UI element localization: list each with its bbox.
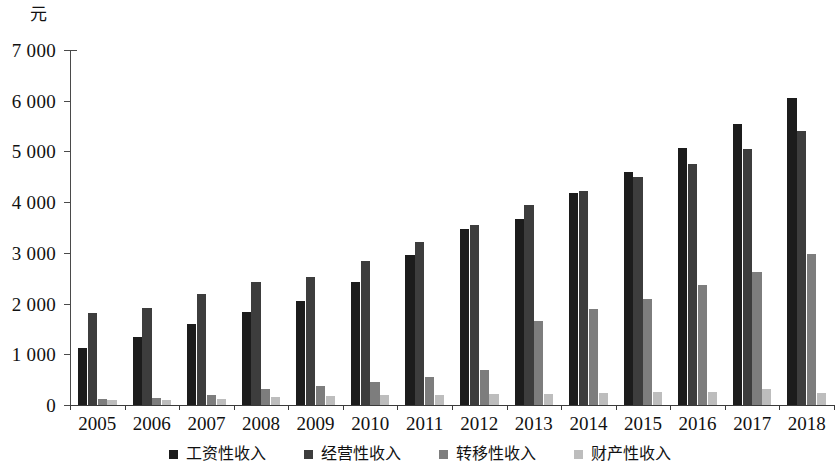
x-axis-tick xyxy=(561,405,562,410)
bar xyxy=(460,229,469,405)
y-axis-tick-label: 4 000 xyxy=(12,193,56,212)
x-axis-tick-label: 2008 xyxy=(234,413,289,435)
bar xyxy=(152,398,161,405)
bar-group xyxy=(179,50,234,405)
x-axis-tick xyxy=(70,405,71,410)
bar xyxy=(643,299,652,405)
x-axis-tick-label: 2017 xyxy=(725,413,780,435)
y-axis-tick-label: 5 000 xyxy=(12,142,56,161)
bar-chart: 元 01 0002 0003 0004 0005 0006 0007 00020… xyxy=(0,0,840,465)
y-axis-tick-label: 1 000 xyxy=(12,345,56,364)
x-axis-tick xyxy=(616,405,617,410)
bar xyxy=(197,294,206,405)
legend-item-label: 经营性收入 xyxy=(321,445,401,463)
legend-item[interactable]: 财产性收入 xyxy=(574,445,671,463)
bar xyxy=(787,98,796,405)
bar xyxy=(817,393,826,405)
bar xyxy=(743,149,752,405)
bar-group xyxy=(725,50,780,405)
bar xyxy=(435,395,444,405)
x-axis-tick xyxy=(179,405,180,410)
y-axis-tick-label: 2 000 xyxy=(12,295,56,314)
bar xyxy=(688,164,697,405)
x-axis-tick xyxy=(343,405,344,410)
bar-group xyxy=(70,50,125,405)
legend-item[interactable]: 转移性收入 xyxy=(439,445,536,463)
bar xyxy=(415,242,424,405)
legend-item[interactable]: 工资性收入 xyxy=(169,445,266,463)
bar xyxy=(361,261,370,405)
bar xyxy=(207,395,216,405)
legend-item-label: 工资性收入 xyxy=(186,445,266,463)
bar xyxy=(78,348,87,405)
x-axis-tick-label: 2009 xyxy=(288,413,343,435)
bar xyxy=(351,282,360,405)
bar xyxy=(142,308,151,405)
y-axis-tick-label: 0 xyxy=(46,396,56,415)
bar xyxy=(133,337,142,405)
legend-swatch-icon xyxy=(574,450,583,459)
bar xyxy=(370,382,379,405)
bar-group xyxy=(397,50,452,405)
x-axis-tick-label: 2011 xyxy=(397,413,452,435)
bar xyxy=(261,389,270,405)
bar xyxy=(569,193,578,405)
legend-item[interactable]: 经营性收入 xyxy=(304,445,401,463)
bar xyxy=(88,313,97,405)
x-axis-tick xyxy=(779,405,780,410)
bar xyxy=(797,131,806,405)
bar-group xyxy=(616,50,671,405)
bar-group xyxy=(561,50,616,405)
bar xyxy=(534,321,543,405)
x-axis-tick xyxy=(507,405,508,410)
bar xyxy=(807,254,816,405)
x-axis-tick-label: 2005 xyxy=(70,413,125,435)
bar xyxy=(762,389,771,405)
bar xyxy=(733,124,742,405)
bar xyxy=(678,148,687,405)
x-axis-tick-label: 2013 xyxy=(507,413,562,435)
bar xyxy=(480,370,489,406)
x-axis-tick xyxy=(125,405,126,410)
bar xyxy=(524,205,533,405)
bar-group xyxy=(234,50,289,405)
legend-item-label: 转移性收入 xyxy=(456,445,536,463)
x-axis-tick xyxy=(288,405,289,410)
bar xyxy=(515,219,524,405)
bar-group xyxy=(343,50,398,405)
chart-legend: 工资性收入经营性收入转移性收入财产性收入 xyxy=(0,445,840,463)
bar xyxy=(251,282,260,405)
x-axis-tick xyxy=(725,405,726,410)
bar-group xyxy=(125,50,180,405)
bar xyxy=(98,399,107,405)
x-axis-tick-label: 2007 xyxy=(179,413,234,435)
bar xyxy=(380,395,389,405)
y-axis-tick-label: 6 000 xyxy=(12,92,56,111)
bar xyxy=(470,225,479,405)
bar xyxy=(579,191,588,405)
bar xyxy=(316,386,325,405)
x-axis-tick xyxy=(452,405,453,410)
bar-group xyxy=(288,50,343,405)
bar xyxy=(752,272,761,405)
x-axis-tick-label: 2006 xyxy=(125,413,180,435)
bar xyxy=(271,397,280,405)
bar xyxy=(217,399,226,405)
x-axis-tick-label: 2018 xyxy=(779,413,834,435)
y-axis-unit-label: 元 xyxy=(30,4,47,24)
x-axis-tick-label: 2014 xyxy=(561,413,616,435)
bar-group xyxy=(779,50,834,405)
plot-area: 01 0002 0003 0004 0005 0006 0007 0002005… xyxy=(70,50,834,405)
bar xyxy=(489,394,498,405)
bar-group xyxy=(452,50,507,405)
bar xyxy=(187,324,196,405)
bar xyxy=(698,285,707,405)
legend-item-label: 财产性收入 xyxy=(591,445,671,463)
x-axis-tick xyxy=(834,405,835,410)
x-axis-tick-label: 2012 xyxy=(452,413,507,435)
x-axis-tick xyxy=(397,405,398,410)
legend-swatch-icon xyxy=(304,450,313,459)
bar xyxy=(589,309,598,405)
x-axis-tick-label: 2010 xyxy=(343,413,398,435)
bar xyxy=(653,392,662,405)
